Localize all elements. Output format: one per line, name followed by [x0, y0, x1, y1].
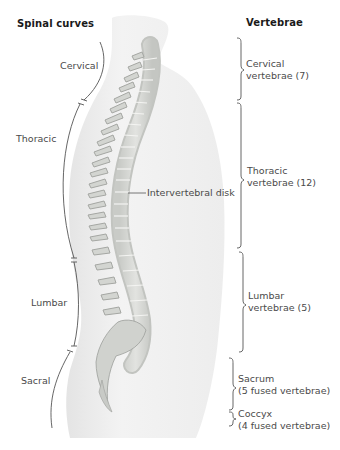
vertebrae-heading: Vertebrae	[246, 17, 303, 28]
vertebrae-label-thoracic: Thoracic vertebrae (12)	[247, 165, 316, 188]
vertebrae-label-coccyx-name: Coccyx	[238, 408, 330, 420]
vertebrae-label-cervical: Cervical vertebrae (7)	[246, 58, 309, 81]
vertebrae-label-thoracic-count: vertebrae (12)	[247, 177, 316, 189]
spine-diagram: Spinal curves Vertebrae Cervical Thoraci…	[0, 0, 340, 450]
vertebrae-label-thoracic-name: Thoracic	[247, 165, 316, 177]
vertebrae-label-lumbar: Lumbar vertebrae (5)	[248, 290, 311, 313]
intervertebral-disk-label: Intervertebral disk	[147, 187, 235, 199]
curve-label-thoracic: Thoracic	[16, 133, 56, 145]
curve-label-cervical: Cervical	[60, 60, 98, 72]
spinal-curves-heading: Spinal curves	[17, 18, 94, 29]
vertebrae-braces	[229, 38, 246, 426]
vertebrae-label-coccyx-count: (4 fused vertebrae)	[238, 420, 330, 432]
curve-label-lumbar: Lumbar	[31, 297, 67, 309]
thoracic-brace	[237, 103, 244, 248]
vertebrae-label-lumbar-count: vertebrae (5)	[248, 302, 311, 314]
vertebrae-label-lumbar-name: Lumbar	[248, 290, 311, 302]
curve-label-sacral: Sacral	[21, 375, 50, 387]
vertebrae-label-sacrum: Sacrum (5 fused vertebrae)	[238, 373, 330, 396]
vertebrae-label-sacrum-name: Sacrum	[238, 373, 330, 385]
cervical-brace	[237, 38, 244, 100]
sacrum-brace	[229, 358, 236, 410]
lumbar-brace	[239, 252, 246, 352]
coccyx-brace	[229, 412, 236, 426]
vertebrae-label-coccyx: Coccyx (4 fused vertebrae)	[238, 408, 330, 431]
vertebrae-label-cervical-count: vertebrae (7)	[246, 70, 309, 82]
vertebrae-label-sacrum-count: (5 fused vertebrae)	[238, 385, 330, 397]
vertebrae-label-cervical-name: Cervical	[246, 58, 309, 70]
